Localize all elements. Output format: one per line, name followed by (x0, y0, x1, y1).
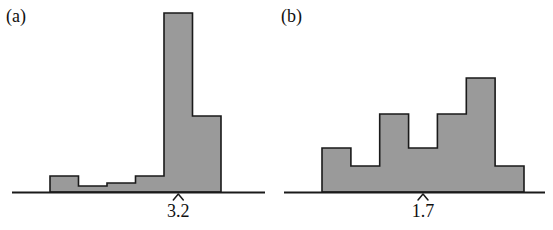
panel-b-label: (b) (281, 6, 302, 27)
panel-a-mean-marker-icon (173, 194, 183, 200)
panel-b-histogram-bars (322, 78, 524, 192)
panel-b-mean-marker-icon (418, 194, 428, 200)
panel-a-label: (a) (6, 6, 26, 27)
panel-b-plot (284, 78, 545, 200)
panel-a-mean-tick-label: 3.2 (155, 201, 201, 222)
two-panel-histogram-figure: (a) (b) 3.2 1.7 (0, 0, 553, 230)
panel-a-histogram-bars (50, 13, 221, 192)
histograms-svg (0, 0, 553, 230)
panel-a-plot (12, 13, 265, 200)
panel-b-mean-tick-label: 1.7 (400, 201, 446, 222)
